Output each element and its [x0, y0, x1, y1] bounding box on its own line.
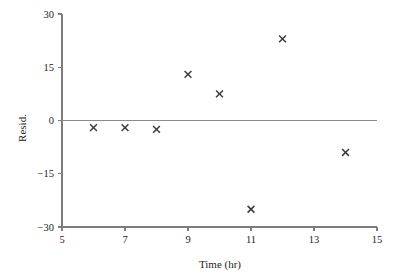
x-tick-label-4: 13 — [309, 234, 320, 245]
chart-canvas: 30150−15−30 579111315 Time (hr) Resid. — [0, 0, 395, 280]
data-point — [279, 35, 286, 42]
x-axis-title: Time (hr) — [199, 258, 241, 271]
data-point — [248, 206, 255, 213]
y-axis-title: Resid. — [16, 114, 28, 142]
data-point — [122, 124, 129, 131]
y-tick-label-2: 0 — [49, 115, 54, 126]
x-tick-label-1: 7 — [122, 234, 127, 245]
x-axis-tick-labels: 579111315 — [59, 234, 382, 245]
y-tick-label-1: 15 — [44, 62, 55, 73]
data-point — [90, 124, 97, 131]
x-tick-label-3: 11 — [246, 234, 256, 245]
data-point — [153, 126, 160, 133]
data-point — [342, 149, 349, 156]
y-tick-label-4: −30 — [38, 222, 54, 233]
data-point — [216, 90, 223, 97]
y-axis-tick-labels: 30150−15−30 — [38, 9, 54, 233]
x-tick-label-2: 9 — [185, 234, 190, 245]
data-point-group — [90, 35, 349, 212]
x-tick-label-5: 15 — [372, 234, 383, 245]
data-point — [185, 71, 192, 78]
residual-scatter-chart: 30150−15−30 579111315 Time (hr) Resid. — [0, 0, 395, 280]
x-tick-label-0: 5 — [59, 234, 64, 245]
y-tick-label-3: −15 — [38, 168, 54, 179]
y-tick-label-0: 30 — [44, 9, 55, 20]
